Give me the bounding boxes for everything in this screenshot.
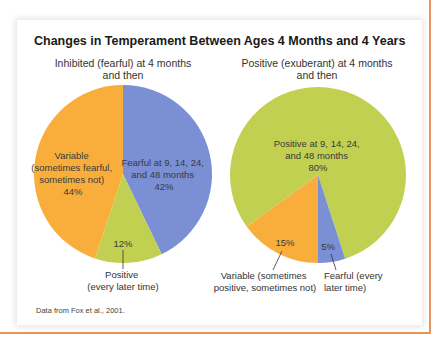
left-pie: Fearful at 9, 14, 24, and 48 months 42% … <box>31 85 212 292</box>
left-positive-pct: 12% <box>113 238 133 249</box>
left-positive-callout: Positive (every later time) <box>87 269 158 292</box>
right-variable-leader <box>273 251 282 270</box>
data-source-note: Data from Fox et al., 2001. <box>36 306 125 315</box>
right-variable-callout: Variable (sometimes positive, sometimes … <box>214 270 316 293</box>
pie-charts: Fearful at 9, 14, 24, and 48 months 42% … <box>0 0 440 344</box>
right-fearful-callout: Fearful (every later time) <box>324 270 385 293</box>
right-pie: Positive at 9, 14, 24, and 48 months 80%… <box>214 87 406 293</box>
right-fearful-pct: 5% <box>321 241 335 252</box>
right-variable-pct: 15% <box>275 237 295 248</box>
